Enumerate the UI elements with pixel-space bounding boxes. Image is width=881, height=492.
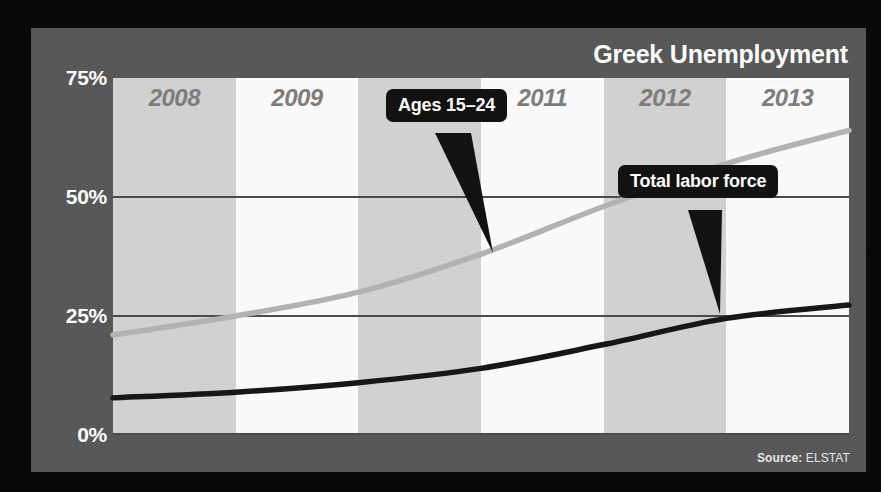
- y-tick-25: 25%: [37, 304, 107, 328]
- y-tick-75: 75%: [37, 66, 107, 90]
- chart-figure: Greek Unemployment 75% 50% 25% 0% 2008 2…: [0, 0, 881, 492]
- y-axis: 75% 50% 25% 0%: [31, 78, 107, 435]
- callout-tail-total: [678, 210, 748, 320]
- source-attribution: Source: ELSTAT: [757, 451, 850, 465]
- source-prefix: Source:: [757, 451, 802, 465]
- y-tick-50: 50%: [37, 185, 107, 209]
- chart-title: Greek Unemployment: [593, 40, 848, 69]
- chart-panel: Greek Unemployment 75% 50% 25% 0% 2008 2…: [31, 28, 866, 472]
- callout-total-labor-force: Total labor force: [618, 165, 778, 198]
- callout-ages-15-24: Ages 15–24: [386, 89, 507, 122]
- callout-tail-ages: [413, 133, 533, 258]
- plot-area: 2008 2009 2010 2011 2012 2013 Ages 15–24…: [113, 78, 849, 435]
- y-tick-0: 0%: [37, 423, 107, 447]
- source-value: ELSTAT: [806, 451, 850, 465]
